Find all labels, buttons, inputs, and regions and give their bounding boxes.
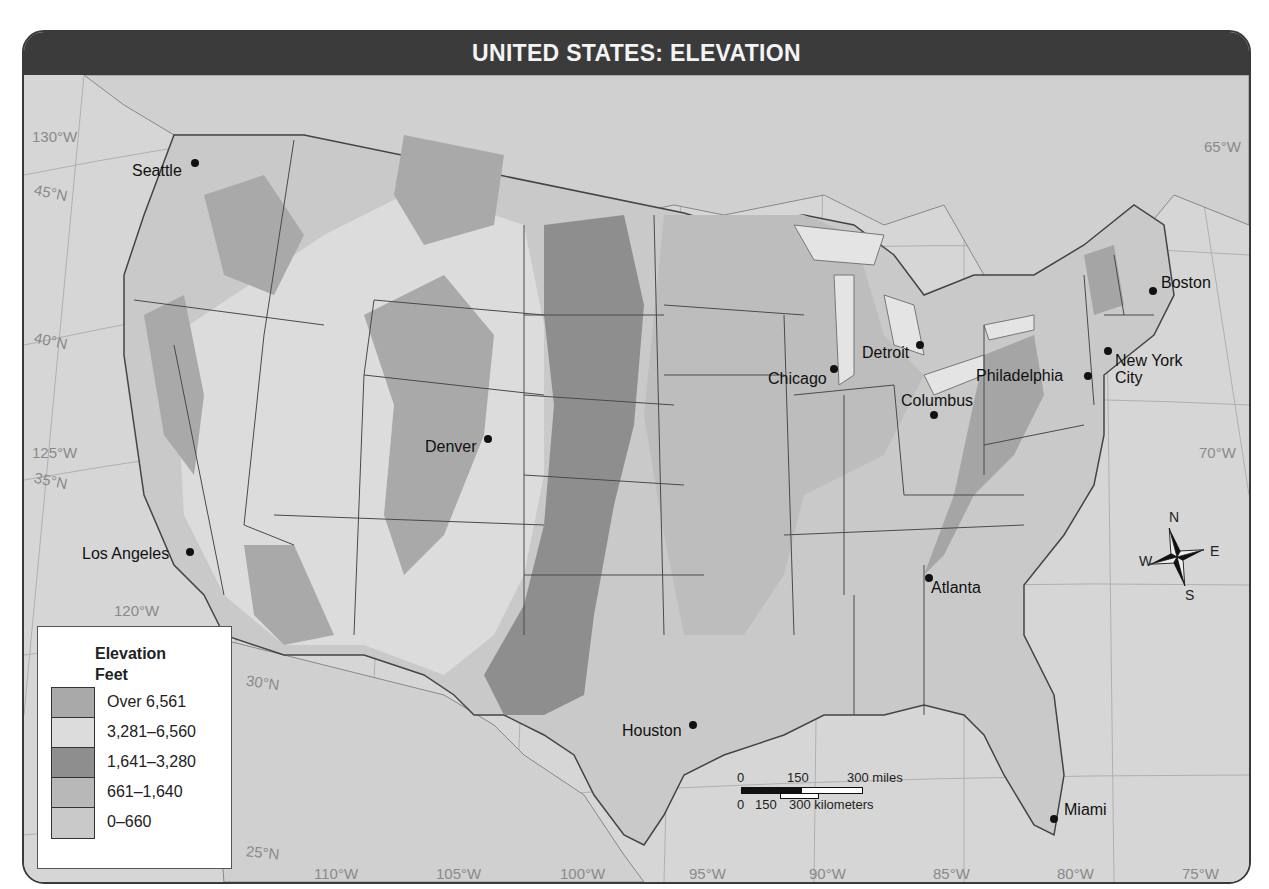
- lon-label-70w: 70°W: [1199, 444, 1236, 461]
- city-dot-new-york-city: [1104, 347, 1112, 355]
- legend-item-1641-3280: 1,641–3,280: [51, 747, 226, 778]
- legend-item-3281-6560: 3,281–6,560: [51, 717, 226, 748]
- city-label-detroit: Detroit: [862, 344, 909, 362]
- legend-label: 1,641–3,280: [107, 753, 196, 771]
- city-dot-los-angeles: [186, 548, 194, 556]
- map-frame: UNITED STATES: ELEVATION: [22, 30, 1251, 884]
- city-dot-miami: [1050, 815, 1058, 823]
- legend-label: 0–660: [107, 813, 152, 831]
- lon-label-125w: 125°W: [32, 444, 77, 461]
- svg-text:E: E: [1210, 543, 1219, 559]
- scale-miles-150: 150: [787, 770, 809, 785]
- city-label-miami: Miami: [1064, 801, 1107, 819]
- legend-swatch: [51, 687, 95, 719]
- city-label-new-york-city: New York City: [1115, 352, 1195, 386]
- legend-item-0-660: 0–660: [51, 807, 226, 838]
- legend-label: Over 6,561: [107, 693, 186, 711]
- city-label-houston: Houston: [622, 722, 682, 740]
- legend-label: 3,281–6,560: [107, 723, 196, 741]
- city-dot-boston: [1149, 287, 1157, 295]
- scale-bar: 0 150 300 miles 0 150 300 kilometers: [737, 770, 937, 820]
- lon-label-80w: 80°W: [1057, 865, 1094, 882]
- city-label-atlanta: Atlanta: [931, 579, 981, 597]
- svg-text:N: N: [1169, 509, 1179, 525]
- scale-km-300: 300 kilometers: [789, 797, 874, 812]
- city-label-philadelphia: Philadelphia: [976, 367, 1063, 385]
- city-dot-detroit: [916, 341, 924, 349]
- city-label-seattle: Seattle: [132, 162, 182, 180]
- scale-miles-0: 0: [737, 770, 744, 785]
- lon-label-95w: 95°W: [689, 865, 726, 882]
- legend-label: 661–1,640: [107, 783, 183, 801]
- lon-label-90w: 90°W: [809, 865, 846, 882]
- lon-label-105w: 105°W: [436, 865, 481, 882]
- city-dot-denver: [484, 435, 492, 443]
- legend-swatch: [51, 777, 95, 809]
- lon-label-120w: 120°W: [114, 602, 159, 619]
- city-dot-chicago: [830, 365, 838, 373]
- lat-label-25n: 25°N: [245, 842, 280, 862]
- legend-swatch: [51, 717, 95, 749]
- lon-label-100w: 100°W: [560, 865, 605, 882]
- city-dot-seattle: [191, 159, 199, 167]
- lon-label-110w: 110°W: [314, 865, 358, 882]
- city-label-denver: Denver: [425, 438, 477, 456]
- lon-label-65w: 65°W: [1204, 138, 1241, 155]
- lon-label-85w: 85°W: [933, 865, 970, 882]
- city-dot-houston: [689, 721, 697, 729]
- compass-icon: N E W S: [1122, 502, 1232, 612]
- legend-item-over-6561: Over 6,561: [51, 687, 226, 718]
- city-label-columbus: Columbus: [901, 392, 973, 410]
- legend-title: Elevation: [95, 645, 166, 663]
- city-label-boston: Boston: [1161, 274, 1211, 292]
- elevation-legend: Elevation Feet Over 6,561 3,281–6,560 1,…: [37, 626, 232, 869]
- scale-km-0: 0: [737, 797, 744, 812]
- lon-label-75w: 75°W: [1182, 865, 1219, 882]
- svg-text:S: S: [1185, 587, 1194, 603]
- legend-swatch: [51, 747, 95, 779]
- legend-unit: Feet: [95, 666, 128, 684]
- city-label-los-angeles: Los Angeles: [82, 545, 169, 563]
- lon-label-130w: 130°W: [32, 128, 77, 145]
- scale-km-150: 150: [755, 797, 777, 812]
- legend-swatch: [51, 807, 95, 839]
- compass-rose: N E W S: [1122, 502, 1232, 612]
- legend-item-661-1640: 661–1,640: [51, 777, 226, 808]
- city-label-chicago: Chicago: [768, 370, 827, 388]
- scale-miles-300: 300 miles: [847, 770, 903, 785]
- city-dot-columbus: [930, 411, 938, 419]
- map-title: UNITED STATES: ELEVATION: [24, 32, 1249, 75]
- svg-text:W: W: [1139, 553, 1153, 569]
- city-dot-philadelphia: [1084, 372, 1092, 380]
